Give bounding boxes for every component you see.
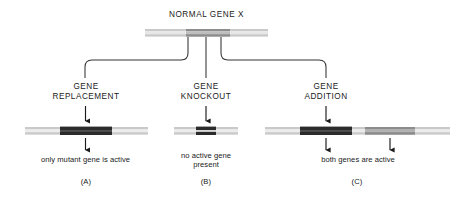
panel-c-graphics — [265, 106, 450, 150]
branch-connectors — [85, 37, 326, 78]
chromosome-c — [265, 127, 450, 135]
caption-panel-a: only mutant gene is active — [14, 156, 157, 165]
panel-id-c: (C) — [337, 178, 377, 187]
branch-label-gene-replacement: GENE REPLACEMENT — [36, 82, 136, 101]
added-gene-block-c — [300, 127, 352, 135]
chromosome-b — [174, 127, 238, 135]
figure-title: NORMAL GENE X — [141, 10, 272, 20]
chromosome-a — [25, 127, 148, 135]
top-chromosome — [145, 29, 268, 37]
mutant-gene-block-a — [60, 127, 112, 135]
caption-panel-c: both genes are active — [294, 156, 422, 165]
panel-b-graphics — [174, 106, 238, 135]
branch-label-gene-addition: GENE ADDITION — [281, 82, 371, 101]
branch-label-gene-knockout: GENE KNOCKOUT — [161, 82, 251, 101]
top-gene-x-segment — [186, 29, 230, 37]
caption-panel-b: no active gene present — [163, 152, 249, 170]
panel-id-b: (B) — [186, 178, 226, 187]
native-gene-block-c — [365, 127, 415, 135]
panel-id-a: (A) — [66, 178, 106, 187]
panel-a-graphics — [25, 106, 148, 150]
diagram-artwork — [0, 0, 475, 204]
disrupted-gene-block-b — [196, 127, 216, 135]
figure-canvas: NORMAL GENE X GENE REPLACEMENT GENE KNOC… — [0, 0, 475, 204]
